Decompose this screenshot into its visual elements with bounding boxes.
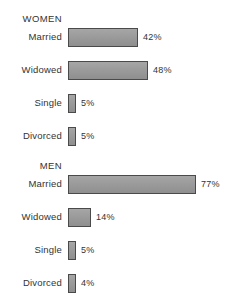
bar-track-women-widowed [68, 61, 148, 80]
bar-row-women-widowed: Widowed 48% [0, 61, 241, 80]
bar-fill-women-divorced [68, 127, 76, 146]
bar-row-men-widowed: Widowed 14% [0, 208, 241, 227]
bar-track-men-widowed [68, 208, 91, 227]
bar-label-men-widowed: Widowed [0, 211, 62, 222]
bar-value-men-single: 5% [81, 245, 94, 255]
bar-fill-women-widowed [68, 61, 148, 80]
bar-label-women-married: Married [0, 31, 62, 42]
bar-fill-men-widowed [68, 208, 91, 227]
bar-fill-women-single [68, 94, 76, 113]
bar-value-women-widowed: 48% [153, 65, 172, 75]
bar-track-women-single [68, 94, 76, 113]
bar-value-men-widowed: 14% [96, 212, 115, 222]
bar-label-women-single: Single [0, 97, 62, 108]
bar-track-men-married [68, 175, 196, 194]
bar-track-women-married [68, 28, 138, 47]
bar-value-women-single: 5% [81, 98, 94, 108]
bar-track-women-divorced [68, 127, 76, 146]
bar-row-men-single: Single 5% [0, 241, 241, 260]
bar-label-men-single: Single [0, 244, 62, 255]
bar-value-women-divorced: 5% [81, 131, 94, 141]
bar-label-women-divorced: Divorced [0, 130, 62, 141]
marital-status-bar-chart: WOMEN Married 42% Widowed 48% Single 5% … [0, 0, 241, 306]
bar-label-women-widowed: Widowed [0, 64, 62, 75]
bar-track-men-single [68, 241, 76, 260]
bar-fill-men-married [68, 175, 196, 194]
bar-row-men-married: Married 77% [0, 175, 241, 194]
bar-row-women-divorced: Divorced 5% [0, 127, 241, 146]
bar-label-men-married: Married [0, 178, 62, 189]
bar-fill-men-single [68, 241, 76, 260]
group-heading-men: MEN [0, 160, 62, 171]
bar-fill-men-divorced [68, 274, 76, 293]
bar-row-men-divorced: Divorced 4% [0, 274, 241, 293]
bar-value-men-married: 77% [201, 179, 220, 189]
bar-label-men-divorced: Divorced [0, 277, 62, 288]
bar-fill-women-married [68, 28, 138, 47]
group-heading-women: WOMEN [0, 13, 62, 24]
bar-row-women-married: Married 42% [0, 28, 241, 47]
bar-value-men-divorced: 4% [81, 278, 94, 288]
bar-track-men-divorced [68, 274, 76, 293]
bar-row-women-single: Single 5% [0, 94, 241, 113]
bar-value-women-married: 42% [143, 32, 162, 42]
